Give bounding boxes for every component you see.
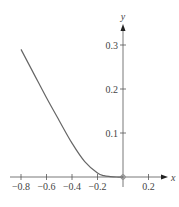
y-tick-label: 0.2 [106,84,119,95]
x-tick-label: −0.2 [88,181,106,192]
axes [10,24,168,187]
x-tick-label: −0.4 [63,181,81,192]
y-tick-label: 0.3 [106,40,119,51]
y-axis-arrow-icon [121,24,126,31]
x-tick-label: −0.6 [37,181,55,192]
x-tick-label: −0.8 [12,181,30,192]
x-axis-arrow-icon [161,175,168,180]
y-axis-label: y [120,11,126,22]
ticks: −0.8−0.6−0.4−0.20.20.10.20.3 [12,40,155,193]
axis-labels: xy [120,11,176,183]
data-curve [21,49,123,177]
y-tick-label: 0.1 [106,128,119,139]
series [21,49,125,179]
chart-canvas: −0.8−0.6−0.4−0.20.20.10.20.3 xy [0,0,179,207]
x-axis-label: x [170,172,176,183]
chart: −0.8−0.6−0.4−0.20.20.10.20.3 xy [0,0,179,207]
x-tick-label: 0.2 [142,181,155,192]
